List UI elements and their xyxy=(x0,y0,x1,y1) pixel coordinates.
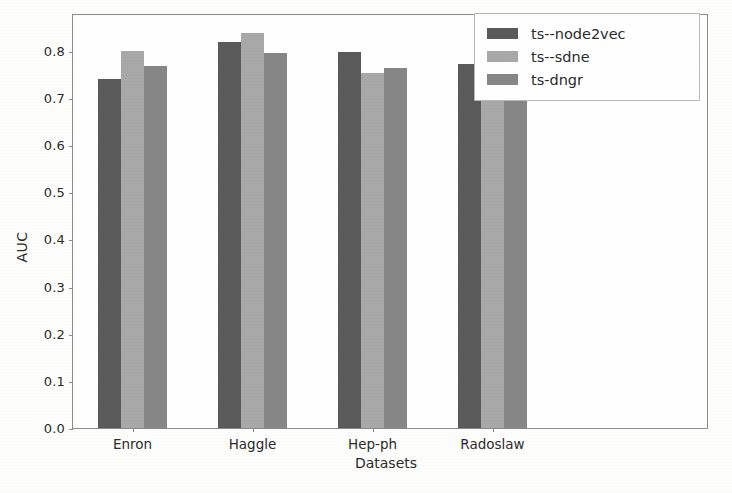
legend-swatch-icon xyxy=(487,51,518,62)
x-tick-label: Enron xyxy=(73,436,193,452)
y-tick-mark xyxy=(69,240,73,241)
bar-enron-ts-node2vec xyxy=(98,79,121,428)
y-tick-mark xyxy=(69,52,73,53)
bar-hep-ph-ts-sdne xyxy=(361,73,384,428)
legend-label: ts-dngr xyxy=(531,72,583,88)
y-tick-mark xyxy=(69,429,73,430)
y-tick-label: 0.3 xyxy=(25,280,65,295)
bar-radoslaw-ts-dngr xyxy=(504,74,527,428)
legend-swatch-icon xyxy=(487,74,518,85)
y-tick-mark xyxy=(69,288,73,289)
x-tick-label: Hep-ph xyxy=(313,436,433,452)
legend-label: ts--node2vec xyxy=(531,26,626,42)
y-tick-mark xyxy=(69,335,73,336)
legend-item-ts-sdne: ts--sdne xyxy=(487,45,689,68)
bar-hep-ph-ts-dngr xyxy=(384,68,407,428)
x-tick-mark xyxy=(493,428,494,432)
bar-radoslaw-ts-node2vec xyxy=(458,64,481,428)
bar-chart-figure: AUC 0.00.10.20.30.40.50.60.70.8 EnronHag… xyxy=(0,0,732,493)
y-tick-label: 0.6 xyxy=(25,138,65,153)
y-tick-mark xyxy=(69,382,73,383)
y-tick-label: 0.1 xyxy=(25,374,65,389)
x-tick-label: Haggle xyxy=(193,436,313,452)
legend: ts--node2vects--sdnets-dngr xyxy=(474,13,700,101)
legend-item-ts-dngr: ts-dngr xyxy=(487,68,689,91)
bar-hep-ph-ts-node2vec xyxy=(338,52,361,428)
y-tick-label: 0.0 xyxy=(25,421,65,436)
bar-haggle-ts-dngr xyxy=(264,53,287,428)
x-tick-mark xyxy=(133,428,134,432)
y-tick-mark xyxy=(69,146,73,147)
bar-haggle-ts-sdne xyxy=(241,33,264,428)
legend-label: ts--sdne xyxy=(531,49,590,65)
y-tick-label: 0.5 xyxy=(25,185,65,200)
bar-haggle-ts-node2vec xyxy=(218,42,241,428)
y-tick-mark xyxy=(69,193,73,194)
y-tick-label: 0.8 xyxy=(25,44,65,59)
bar-enron-ts-dngr xyxy=(144,66,167,428)
x-tick-label: Radoslaw xyxy=(433,436,553,452)
bar-radoslaw-ts-sdne xyxy=(481,76,504,428)
x-tick-mark xyxy=(373,428,374,432)
y-tick-label: 0.2 xyxy=(25,327,65,342)
y-tick-label: 0.7 xyxy=(25,91,65,106)
bar-enron-ts-sdne xyxy=(121,51,144,428)
x-axis-label: Datasets xyxy=(0,455,732,471)
x-tick-mark xyxy=(253,428,254,432)
y-tick-mark xyxy=(69,99,73,100)
y-tick-label: 0.4 xyxy=(25,232,65,247)
legend-swatch-icon xyxy=(487,28,518,39)
legend-item-ts-node2vec: ts--node2vec xyxy=(487,22,689,45)
